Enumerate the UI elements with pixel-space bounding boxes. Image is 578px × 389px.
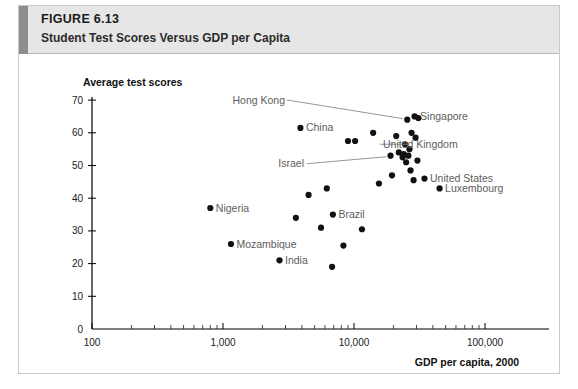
plot-area: 0102030405060701001,00010,000100,000Aver…	[19, 54, 561, 374]
data-point-dot	[407, 167, 413, 173]
data-point-dot	[330, 211, 336, 217]
data-point-dot	[318, 225, 324, 231]
x-tick-label: 10,000	[339, 337, 370, 348]
data-point-dot	[276, 257, 282, 263]
data-point	[359, 226, 365, 232]
data-point-dot	[228, 241, 234, 247]
figure-title: Student Test Scores Versus GDP per Capit…	[41, 31, 290, 45]
data-point-dot	[436, 185, 442, 191]
data-point-dot	[359, 226, 365, 232]
data-point	[318, 225, 324, 231]
data-point	[403, 159, 409, 165]
data-point-label: Mozambique	[236, 238, 296, 250]
scatter-plot-svg: 0102030405060701001,00010,000100,000Aver…	[19, 54, 561, 374]
data-point	[329, 264, 335, 270]
data-point-dot	[370, 130, 376, 136]
x-tick-label: 100	[84, 337, 101, 348]
data-point-dot	[297, 125, 303, 131]
hong-kong-leader-line	[287, 100, 403, 119]
data-point-dot	[414, 157, 420, 163]
data-point	[408, 130, 414, 136]
data-point-dot	[305, 192, 311, 198]
data-point-dot	[404, 117, 410, 123]
data-point	[407, 167, 413, 173]
data-point-label: Nigeria	[216, 202, 249, 214]
data-point	[345, 138, 351, 144]
y-tick-label: 70	[72, 95, 84, 106]
x-tick-label: 100,000	[467, 337, 504, 348]
data-point-dot	[345, 138, 351, 144]
data-point: India	[276, 254, 308, 266]
y-tick-label: 40	[72, 193, 84, 204]
data-point	[387, 153, 393, 159]
data-point-dot	[207, 205, 213, 211]
united-kingdom-label: United Kingdom	[383, 138, 458, 150]
figure-number-label: FIGURE 6.13	[41, 12, 119, 26]
data-point-dot	[403, 159, 409, 165]
hong-kong-label: Hong Kong	[232, 94, 285, 106]
x-tick-label: 1,000	[210, 337, 235, 348]
data-point-label: India	[285, 254, 308, 266]
y-tick-label: 50	[72, 160, 84, 171]
data-point	[410, 177, 416, 183]
y-tick-label: 10	[72, 291, 84, 302]
data-point: Brazil	[330, 208, 365, 220]
data-point	[370, 130, 376, 136]
data-point	[415, 115, 421, 121]
israel-leader-line	[307, 157, 387, 164]
data-point: Nigeria	[207, 202, 249, 214]
data-point-label: Singapore	[420, 110, 468, 122]
data-point-dot	[415, 115, 421, 121]
data-point	[305, 192, 311, 198]
header-accent-bar	[19, 6, 28, 54]
data-point	[414, 157, 420, 163]
data-point	[324, 185, 330, 191]
data-point-label: Luxembourg	[445, 182, 504, 194]
data-point	[352, 138, 358, 144]
y-tick-label: 0	[77, 324, 83, 335]
data-point-dot	[387, 153, 393, 159]
data-point-dot	[410, 177, 416, 183]
data-point-dot	[405, 153, 411, 159]
data-point-label: China	[306, 121, 334, 133]
israel-label: Israel	[278, 157, 304, 169]
data-point-dot	[352, 138, 358, 144]
data-point	[293, 215, 299, 221]
data-point-dot	[293, 215, 299, 221]
y-tick-label: 60	[72, 127, 84, 138]
data-point-dot	[408, 130, 414, 136]
data-point-dot	[329, 264, 335, 270]
data-point	[376, 180, 382, 186]
y-axis-title: Average test scores	[83, 76, 183, 88]
data-point: Mozambique	[228, 238, 297, 250]
y-tick-label: 20	[72, 258, 84, 269]
data-point-dot	[324, 185, 330, 191]
data-point	[340, 243, 346, 249]
y-tick-label: 30	[72, 225, 84, 236]
data-point-dot	[340, 243, 346, 249]
x-axis-title: GDP per capita, 2000	[415, 356, 519, 368]
data-point-label: Brazil	[338, 208, 364, 220]
data-point-dot	[421, 175, 427, 181]
data-point: Luxembourg	[436, 182, 503, 194]
data-point-dot	[376, 180, 382, 186]
data-point	[389, 172, 395, 178]
figure-container: FIGURE 6.13 Student Test Scores Versus G…	[18, 5, 560, 374]
figure-screenshot: FIGURE 6.13 Student Test Scores Versus G…	[0, 0, 578, 389]
data-point-dot	[389, 172, 395, 178]
data-point: China	[297, 121, 333, 133]
data-point	[404, 117, 410, 123]
data-point	[405, 153, 411, 159]
figure-header-band: FIGURE 6.13 Student Test Scores Versus G…	[19, 6, 559, 54]
